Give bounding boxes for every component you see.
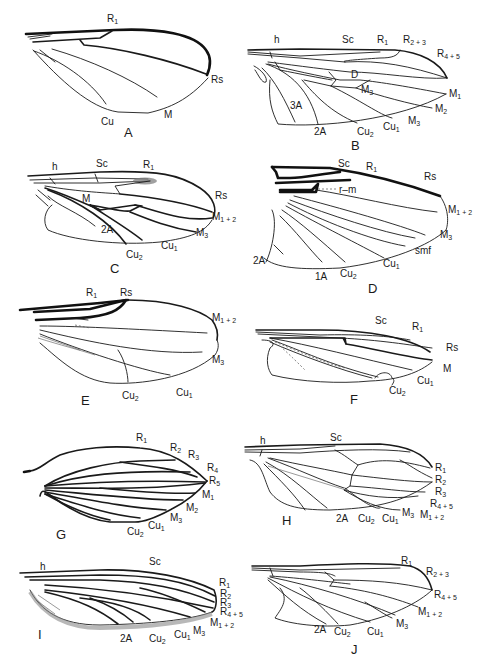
panel-label-e: E xyxy=(81,394,90,407)
vein-label-e-cu1: Cu1 xyxy=(176,388,193,401)
vein-label-c-rs: Rs xyxy=(215,191,227,201)
vein-label-g-r2: R2 xyxy=(170,443,181,456)
vein-label-g-m2: M2 xyxy=(186,503,198,516)
vein-label-g-m1: M1 xyxy=(202,490,214,503)
vein-label-h-cu2: Cu2 xyxy=(358,514,375,527)
vein-label-f-m: M xyxy=(443,364,451,374)
vein-label-h-2a: 2A xyxy=(336,514,348,524)
vein-label-i-sc: Sc xyxy=(149,557,161,567)
wing-i-drawing xyxy=(20,570,216,628)
vein-label-b-3a: 3A xyxy=(290,101,302,111)
vein-label-a-r1: R1 xyxy=(107,14,118,27)
vein-label-c-m12: M1 + 2 xyxy=(212,212,236,225)
vein-label-c-cu2: Cu2 xyxy=(126,250,143,263)
vein-label-i-h: h xyxy=(40,562,46,572)
vein-label-j-cu1: Cu1 xyxy=(367,627,384,640)
vein-label-j-m3: M3 xyxy=(396,619,408,632)
vein-label-c-r1: R1 xyxy=(143,160,154,173)
vein-label-d-m12: M1 + 2 xyxy=(448,205,472,218)
vein-label-c-sc: Sc xyxy=(96,159,108,169)
panel-label-d: D xyxy=(368,282,377,295)
vein-label-b-cu1: Cu1 xyxy=(383,122,400,135)
panel-label-h: H xyxy=(282,514,291,527)
vein-label-i-m3: M3 xyxy=(193,626,205,639)
vein-label-b-m3-inner: M3 xyxy=(361,85,373,98)
vein-label-h-m12: M1 + 2 xyxy=(420,510,444,523)
vein-label-j-r1: R1 xyxy=(401,556,412,569)
vein-label-g-cu1: Cu1 xyxy=(148,521,165,534)
vein-label-a-m: M xyxy=(164,110,172,120)
vein-label-d-smf: smf xyxy=(415,246,431,256)
vein-label-e-r1: R1 xyxy=(86,288,97,301)
panel-label-g: G xyxy=(56,528,66,541)
vein-label-b-2a: 2A xyxy=(314,127,326,137)
vein-label-g-r3: R3 xyxy=(188,450,199,463)
wing-g-drawing xyxy=(24,447,207,522)
panel-label-f: F xyxy=(350,393,358,406)
vein-label-e-rs: Rs xyxy=(120,288,132,298)
vein-label-b-sc: Sc xyxy=(342,35,354,45)
vein-label-d-1a: 1A xyxy=(315,272,327,282)
vein-label-e-m12: M1 + 2 xyxy=(212,313,236,326)
panel-label-c: C xyxy=(110,262,119,275)
vein-label-b-m1: M1 xyxy=(449,89,461,102)
vein-label-d-m3: M3 xyxy=(440,230,452,243)
wing-e-drawing xyxy=(20,300,218,383)
vein-label-c-cu1: Cu1 xyxy=(161,241,178,254)
vein-label-h-sc: Sc xyxy=(330,433,342,443)
vein-label-b-m2: M2 xyxy=(435,104,447,117)
vein-label-i-2a: 2A xyxy=(120,634,132,644)
vein-label-g-cu2: Cu2 xyxy=(127,527,144,540)
vein-label-f-sc: Sc xyxy=(375,316,387,326)
wing-a-drawing xyxy=(26,30,210,113)
vein-label-c-m: M xyxy=(82,194,90,204)
vein-label-j-cu2: Cu2 xyxy=(334,627,351,640)
vein-label-b-r1: R1 xyxy=(377,35,388,48)
vein-label-f-cu1: Cu1 xyxy=(417,376,434,389)
vein-label-c-m3: M3 xyxy=(196,228,208,241)
wing-h-drawing xyxy=(245,444,432,510)
vein-label-h-cu1: Cu1 xyxy=(382,514,399,527)
vein-label-i-m12: M1 + 2 xyxy=(210,618,234,631)
panel-label-b: B xyxy=(351,139,360,152)
vein-label-b-r45: R4 + 5 xyxy=(437,49,460,62)
vein-label-b-h: h xyxy=(274,35,280,45)
vein-label-g-m3: M3 xyxy=(170,513,182,526)
vein-label-e-m3: M3 xyxy=(212,355,224,368)
vein-label-c-h: h xyxy=(52,162,58,172)
vein-label-j-r45: R4 + 5 xyxy=(434,590,457,603)
vein-label-j-m12: M1 + 2 xyxy=(418,607,442,620)
wing-j-drawing xyxy=(252,564,432,626)
vein-label-d-cu1: Cu1 xyxy=(383,259,400,272)
vein-label-b-d: D xyxy=(351,70,358,80)
vein-label-d-2a: 2A xyxy=(253,256,265,266)
wing-f-drawing xyxy=(256,330,432,385)
vein-label-b-r23: R2 + 3 xyxy=(403,35,426,48)
vein-label-a-cu: Cu xyxy=(101,117,114,127)
vein-label-g-r5: R5 xyxy=(209,476,220,489)
vein-label-i-cu1: Cu1 xyxy=(174,630,191,643)
vein-label-d-rs: Rs xyxy=(424,172,436,182)
vein-label-f-rs: Rs xyxy=(446,343,458,353)
vein-label-h-m3: M3 xyxy=(402,508,414,521)
vein-label-a-rs: Rs xyxy=(211,75,223,85)
vein-label-e-cu2: Cu2 xyxy=(122,391,139,404)
vein-label-b-m3: M3 xyxy=(408,116,420,129)
vein-label-j-r23: R2 + 3 xyxy=(426,567,449,580)
vein-label-c-2a: 2A xyxy=(101,225,113,235)
vein-label-i-cu2: Cu2 xyxy=(149,634,166,647)
vein-label-d-r1: R1 xyxy=(366,162,377,175)
vein-label-f-r1: R1 xyxy=(412,322,423,335)
wing-b-drawing xyxy=(248,49,447,125)
panel-label-j: J xyxy=(351,643,358,656)
wing-c-drawing xyxy=(28,172,215,244)
vein-label-d-sc: Sc xyxy=(338,159,350,169)
vein-label-g-r1: R1 xyxy=(136,433,147,446)
vein-label-j-2a: 2A xyxy=(314,625,326,635)
vein-label-f-cu2: Cu2 xyxy=(389,386,406,399)
vein-label-h-h: h xyxy=(260,436,266,446)
panel-label-i: I xyxy=(38,628,42,641)
vein-label-d-cu2: Cu2 xyxy=(340,269,357,282)
panel-label-a: A xyxy=(124,126,133,139)
vein-label-d-rm: r–m xyxy=(339,185,356,195)
